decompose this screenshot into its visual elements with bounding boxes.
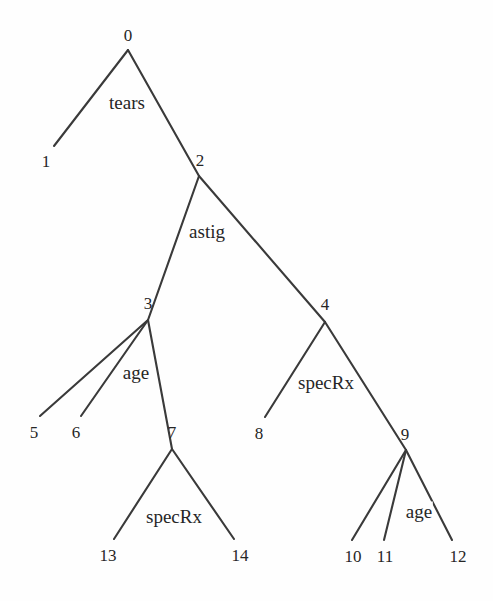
tree-node-1[interactable]: 1 <box>42 153 51 170</box>
tree-node-0[interactable]: 0 <box>124 27 133 44</box>
tree-node-12[interactable]: 12 <box>450 548 467 565</box>
tree-node-8[interactable]: 8 <box>255 425 264 442</box>
tree-node-4[interactable]: 4 <box>321 296 330 313</box>
decision-tree-diagram: 01234567891011121314 tearsastigagespecRx… <box>0 0 493 601</box>
tree-node-5[interactable]: 5 <box>30 424 39 441</box>
tree-split-label-specrx: specRx <box>145 507 203 526</box>
tree-node-6[interactable]: 6 <box>72 424 81 441</box>
tree-split-label-astig: astig <box>188 222 226 241</box>
tree-edge-9-11 <box>384 450 406 540</box>
tree-split-label-specrx: specRx <box>297 373 355 392</box>
tree-split-label-age: age <box>405 502 433 521</box>
tree-split-label-age: age <box>122 363 150 382</box>
tree-edge-0-2 <box>128 50 199 176</box>
tree-split-label-tears: tears <box>108 93 146 112</box>
tree-edge-2-3 <box>148 176 199 320</box>
tree-edge-9-10 <box>352 450 406 540</box>
tree-node-3[interactable]: 3 <box>144 295 153 312</box>
tree-node-10[interactable]: 10 <box>345 548 362 565</box>
tree-node-7[interactable]: 7 <box>168 424 177 441</box>
edges-group <box>40 50 452 540</box>
tree-node-13[interactable]: 13 <box>100 547 117 564</box>
tree-edge-2-4 <box>199 176 325 322</box>
tree-node-2[interactable]: 2 <box>196 152 205 169</box>
tree-edge-9-12 <box>406 450 452 540</box>
tree-node-11[interactable]: 11 <box>377 548 393 565</box>
tree-edge-4-8 <box>265 322 325 417</box>
tree-node-9[interactable]: 9 <box>401 426 410 443</box>
tree-node-14[interactable]: 14 <box>232 547 249 564</box>
